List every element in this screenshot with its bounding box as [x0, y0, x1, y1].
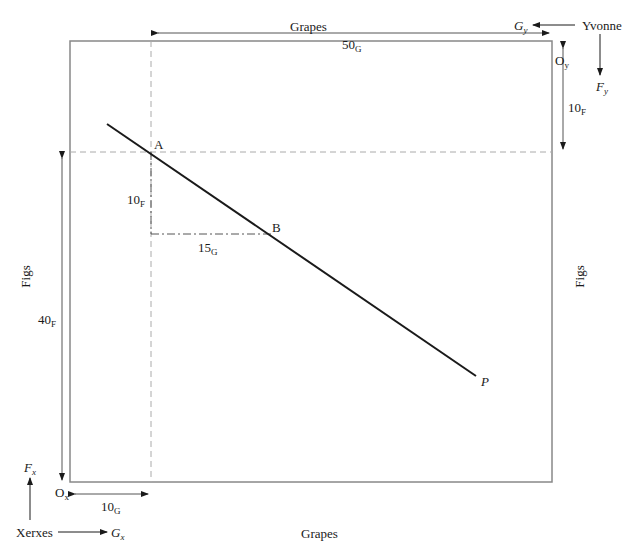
price-line: [107, 124, 476, 376]
xerxes-figs-40f-label: 40F: [38, 313, 56, 329]
right-axis-label: Figs: [573, 265, 586, 287]
top-axis-label: Grapes: [290, 20, 327, 33]
yvonne-name-label: Yvonne: [582, 19, 622, 32]
point-a-label: A: [154, 138, 163, 151]
bottom-axis-label: Grapes: [301, 527, 338, 540]
xerxes-figs-label: Fx: [24, 461, 36, 477]
edgeworth-box-diagram: [0, 0, 633, 548]
xerxes-origin-label: Ox: [55, 486, 69, 502]
yvonne-origin-label: Oy: [555, 54, 569, 70]
xerxes-grapes-label: Gx: [111, 526, 124, 542]
delta-grapes-15g-label: 15G: [198, 241, 218, 257]
width-50g-label: 50G: [342, 38, 362, 54]
point-b-label: B: [272, 221, 281, 234]
edgeworth-box: [70, 41, 552, 482]
yvonne-figs-10f-label: 10F: [568, 101, 586, 117]
point-p-label: P: [481, 375, 489, 388]
delta-figs-10f-label: 10F: [127, 193, 145, 209]
left-axis-label: Figs: [19, 265, 32, 287]
xerxes-grapes-10g-label: 10G: [101, 500, 121, 516]
yvonne-figs-label: Fy: [596, 80, 608, 96]
yvonne-grapes-label: Gy: [514, 19, 527, 35]
xerxes-name-label: Xerxes: [16, 526, 53, 539]
